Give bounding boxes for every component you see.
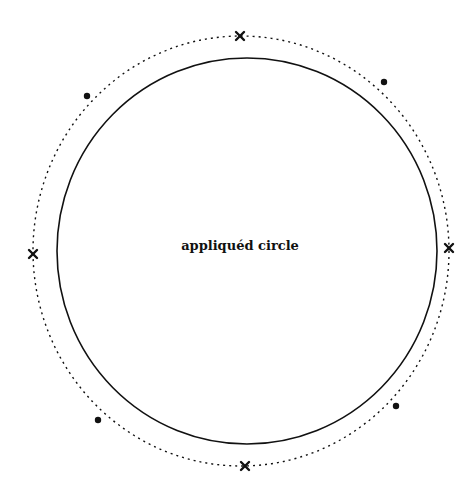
center-label: appliquéd circle (181, 238, 299, 253)
dot-mark-lower-left-icon (95, 417, 101, 423)
cross-mark-top-icon (236, 32, 244, 40)
dot-mark-upper-left-icon (84, 93, 90, 99)
dot-mark-lower-right-icon (393, 403, 399, 409)
appliqued-circle-diagram: appliquéd circle (0, 0, 475, 490)
dot-mark-upper-right-icon (381, 79, 387, 85)
cross-mark-left-icon (29, 250, 37, 258)
cross-mark-right-icon (445, 244, 453, 252)
